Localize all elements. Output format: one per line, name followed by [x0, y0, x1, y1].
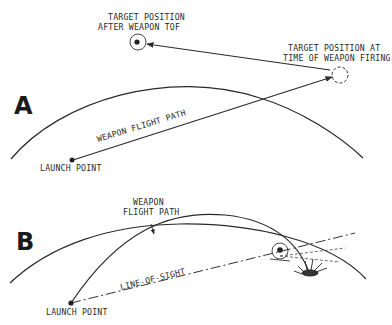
diagram-canvas: A TARGET POSITION AFTER WEAPON TOF TARGE…: [0, 0, 392, 325]
panel-a: A TARGET POSITION AFTER WEAPON TOF TARGE…: [11, 12, 391, 173]
panel-b-launch-point: [68, 300, 73, 305]
target-at-firing-label-1: TARGET POSITION AT: [288, 43, 380, 53]
panel-a-launch-label: LAUNCH POINT: [40, 163, 102, 173]
target-after-tof-label-2: AFTER WEAPON TOF: [98, 22, 180, 32]
panel-a-weapon-flight-path: [73, 77, 332, 160]
line-of-sight: [71, 233, 355, 303]
target-at-firing-marker: [332, 67, 348, 83]
panel-b: B WEAPON FLIGHT PATH LINE-OF-SIGHT LAUNC…: [10, 197, 366, 317]
panel-b-label: B: [16, 228, 34, 256]
panel-b-launch-label: LAUNCH POINT: [46, 307, 108, 317]
panel-a-label: A: [14, 92, 33, 120]
panel-b-target-marker: [270, 243, 290, 261]
target-after-tof-label-1: TARGET POSITION: [108, 12, 185, 22]
impact-burst-icon: [294, 259, 327, 276]
panel-b-flight-path-label-2: FLIGHT PATH: [123, 207, 179, 217]
target-after-tof-marker: [130, 34, 146, 50]
panel-b-flight-path-label-1: WEAPON: [133, 197, 164, 207]
panel-a-launch-point: [70, 158, 75, 163]
line-of-sight-label: LINE-OF-SIGHT: [119, 266, 186, 292]
target-at-firing-label-2: TIME OF WEAPON FIRING: [283, 53, 391, 63]
panel-a-horizon-arc: [11, 87, 363, 159]
panel-b-weapon-flight-path: [71, 214, 310, 303]
